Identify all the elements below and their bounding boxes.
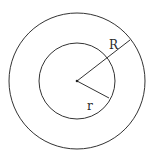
inner-radius-label: r (87, 99, 93, 113)
concentric-circles-diagram: R r (0, 0, 153, 155)
center-point (76, 80, 79, 83)
inner-radius-line (77, 81, 109, 98)
outer-radius-line (77, 40, 130, 81)
outer-radius-label: R (109, 38, 119, 52)
